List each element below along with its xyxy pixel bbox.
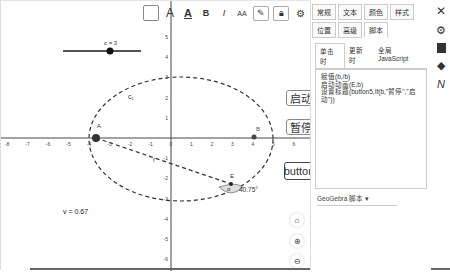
script-language-select[interactable]: GeoGebra 脚本 ▾ [317, 193, 397, 206]
tab-color[interactable]: 颜色 [364, 4, 388, 20]
italic-button[interactable]: I [217, 5, 231, 21]
svg-text:-8: -8 [5, 141, 10, 147]
svg-text:-7: -7 [25, 141, 30, 147]
tab-advanced[interactable]: 高级 [338, 22, 362, 38]
side-icon-bar: ✕ ⚙ ◆ N [432, 0, 450, 274]
svg-text:-2: -2 [128, 141, 133, 147]
angle-value: 40.75° [239, 186, 258, 193]
algebra-icon[interactable] [437, 43, 446, 53]
close-icon[interactable]: ✕ [436, 4, 446, 18]
tab-scripting[interactable]: 脚本 [364, 22, 388, 38]
font-size-button[interactable]: AA [235, 5, 249, 21]
script-subtabs: 单击时 更新时 全局 JavaScript [315, 43, 427, 69]
gear-icon[interactable]: ⚙ [293, 5, 307, 21]
script-editor[interactable]: 赋值(b,/b) 启动动画(E,b) 设置标题(button5,If(b,"暂停… [315, 69, 427, 189]
svg-text:2: 2 [211, 141, 214, 147]
graphics-canvas[interactable]: -8-7-6-5-4-3-2-10123456 54321-1-2-3-4-5-… [1, 1, 311, 271]
svg-text:0: 0 [170, 141, 173, 147]
svg-text:-6: -6 [164, 256, 169, 262]
svg-text:-2: -2 [164, 175, 169, 181]
subtab-on-click[interactable]: 单击时 [315, 43, 345, 68]
svg-text:-1: -1 [164, 155, 169, 161]
properties-panel: 常规 文本 颜色 样式 位置 高级 脚本 单击时 更新时 全局 JavaScri… [310, 0, 431, 270]
svg-text:6: 6 [293, 141, 296, 147]
svg-text:4: 4 [252, 141, 255, 147]
svg-text:5: 5 [165, 34, 168, 40]
curve-label-c1: c₁ [128, 93, 134, 100]
bold-button[interactable]: B [199, 5, 213, 21]
svg-text:3: 3 [231, 141, 234, 147]
graphics-icon[interactable]: ◆ [437, 59, 445, 72]
gear-icon[interactable]: ⚙ [436, 24, 446, 37]
svg-text:-1: -1 [148, 141, 153, 147]
subtab-global-js[interactable]: 全局 JavaScript [374, 43, 427, 68]
zoom-out-icon[interactable]: ⊖ [290, 254, 304, 268]
chevron-down-icon: ▾ [365, 195, 369, 202]
tab-basic[interactable]: 常规 [312, 4, 336, 20]
subtab-on-update[interactable]: 更新时 [345, 43, 373, 68]
svg-text:1: 1 [190, 141, 193, 147]
text-color-button[interactable]: A [163, 5, 177, 21]
tab-style[interactable]: 样式 [390, 4, 414, 20]
svg-text:4: 4 [165, 54, 168, 60]
speed-value: v = 0.67 [63, 208, 88, 215]
point-label-a: A [97, 123, 101, 129]
svg-text:-4: -4 [164, 216, 169, 222]
svg-text:1: 1 [165, 115, 168, 121]
point-label-b: B [256, 126, 260, 132]
svg-text:-6: -6 [46, 141, 51, 147]
segment-label-f: f [153, 157, 155, 163]
svg-text:-3: -3 [107, 141, 112, 147]
script-language-label: GeoGebra 脚本 [317, 195, 363, 202]
zoom-in-icon[interactable]: ⊕ [290, 234, 304, 248]
svg-text:-5: -5 [164, 236, 169, 242]
property-tabs: 常规 文本 颜色 样式 位置 高级 脚本 [311, 0, 431, 39]
angle-symbol: α [227, 186, 230, 192]
tab-position[interactable]: 位置 [312, 22, 336, 38]
svg-text:2: 2 [165, 95, 168, 101]
tab-text[interactable]: 文本 [338, 4, 362, 20]
background-color-button[interactable] [143, 5, 159, 21]
underline-button[interactable]: A [181, 5, 195, 21]
slider-label: c = 3 [104, 40, 117, 46]
graphics-view[interactable]: -8-7-6-5-4-3-2-10123456 54321-1-2-3-4-5-… [0, 0, 310, 270]
svg-text:-5: -5 [66, 141, 71, 147]
home-icon[interactable]: ⌂ [290, 213, 304, 227]
lock-icon[interactable]: 🔒︎ [273, 6, 289, 21]
pin-icon[interactable]: ✎ [253, 6, 269, 21]
point-label-e: E [230, 173, 234, 179]
text-icon[interactable]: N [437, 78, 445, 90]
